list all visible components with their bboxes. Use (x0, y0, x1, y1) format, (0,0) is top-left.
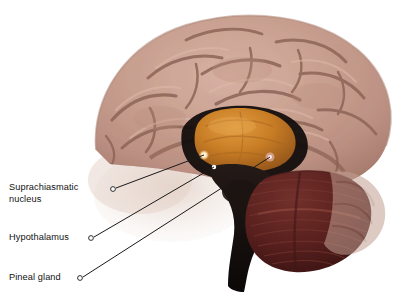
leader-endpoint-hypothalamus (89, 236, 94, 241)
leader-endpoint-pineal-gland (78, 276, 83, 281)
leader-endpoint-suprachiasmatic-nucleus (111, 187, 116, 192)
label-pineal-gland: Pineal gland (9, 272, 61, 284)
label-hypothalamus: Hypothalamus (9, 232, 69, 244)
brain-diagram-figure: Suprachiasmatic nucleus Hypothalamus Pin… (0, 0, 420, 303)
brain-sagittal-illustration (0, 0, 420, 303)
label-suprachiasmatic-nucleus: Suprachiasmatic nucleus (9, 182, 78, 205)
